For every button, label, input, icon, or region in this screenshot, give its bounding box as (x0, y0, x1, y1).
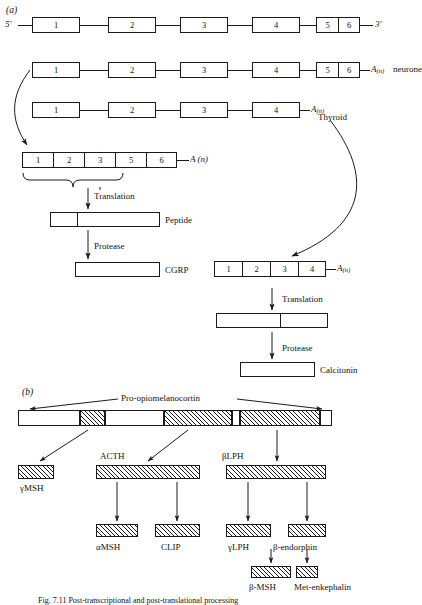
splice-arrow-thyroid (292, 120, 357, 256)
arrow-to-gamma-msh (40, 430, 88, 461)
tissue-label-neurone: neurone (393, 65, 422, 74)
spliced-mrna-brace (23, 173, 123, 187)
arrow-to-acth (148, 430, 188, 461)
splice-arrow-neurone (15, 70, 30, 145)
pomc-pointer-left (30, 399, 118, 409)
pomc-pointer-right (237, 399, 322, 409)
